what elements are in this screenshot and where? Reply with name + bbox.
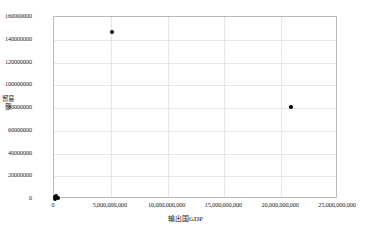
x-axis-title: 输出国GDP bbox=[0, 215, 371, 223]
x-tick-label: 5,000,000,000 bbox=[93, 202, 127, 208]
y-axis-title: 贸易额 bbox=[2, 95, 14, 110]
x-tick-label: 20,000,000,000 bbox=[262, 202, 299, 208]
scatter-chart: 0200000004000000060000000800000001000000… bbox=[0, 0, 371, 235]
x-tick-label: 25,000,000,000 bbox=[318, 202, 355, 208]
x-tick-label: 15,000,000,000 bbox=[205, 202, 242, 208]
x-axis-tick-labels: 05,000,000,00010,000,000,00015,000,000,0… bbox=[0, 0, 371, 235]
x-tick-label: 10,000,000,000 bbox=[148, 202, 185, 208]
x-tick-label: 0 bbox=[52, 202, 55, 208]
